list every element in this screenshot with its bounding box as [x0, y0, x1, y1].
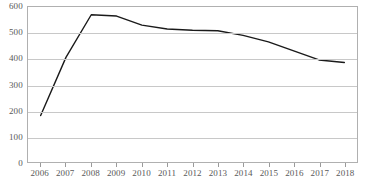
x-axis-tick-label: 2012: [183, 168, 201, 178]
x-axis-tick: [320, 163, 321, 167]
x-axis-tick: [40, 163, 41, 167]
x-axis-tick: [65, 163, 66, 167]
x-axis-tick: [218, 163, 219, 167]
x-axis-tick: [116, 163, 117, 167]
y-axis-tick-label: 200: [9, 106, 23, 116]
x-axis-tick-label: 2008: [81, 168, 99, 178]
x-axis-tick-label: 2014: [234, 168, 252, 178]
x-axis-tick-label: 2018: [336, 168, 354, 178]
x-axis-tick: [294, 163, 295, 167]
x-axis-tick-label: 2017: [311, 168, 329, 178]
x-axis-tick: [345, 163, 346, 167]
y-axis-tick-label: 0: [18, 158, 23, 168]
x-axis-tick-label: 2007: [56, 168, 74, 178]
gridline: [28, 138, 357, 139]
y-axis-tick-label: 600: [9, 1, 23, 11]
x-axis-tick-label: 2009: [107, 168, 125, 178]
gridline: [28, 86, 357, 87]
x-axis-tick: [243, 163, 244, 167]
x-axis-tick: [91, 163, 92, 167]
x-axis-tick-label: 2010: [132, 168, 150, 178]
x-axis-tick: [142, 163, 143, 167]
y-axis-tick-label: 500: [9, 27, 23, 37]
gridline: [28, 112, 357, 113]
series-polyline: [41, 15, 345, 116]
x-axis-tick: [167, 163, 168, 167]
y-axis-tick-labels: 0100200300400500600: [0, 0, 26, 191]
gridline: [28, 33, 357, 34]
x-axis-tick: [193, 163, 194, 167]
x-axis-tick-label: 2006: [31, 168, 49, 178]
x-axis-tick-label: 2013: [209, 168, 227, 178]
x-axis-tick-labels: 2006200720082009201020112012201320142015…: [27, 168, 358, 188]
x-axis-tick: [269, 163, 270, 167]
y-axis-tick-label: 300: [9, 80, 23, 90]
x-axis-tick-label: 2016: [285, 168, 303, 178]
x-axis-tick-label: 2015: [260, 168, 278, 178]
line-chart: 0100200300400500600 20062007200820092010…: [0, 0, 368, 191]
y-axis-tick-label: 100: [9, 132, 23, 142]
y-axis-tick-label: 400: [9, 53, 23, 63]
plot-area: [27, 6, 358, 163]
x-axis-tick-label: 2011: [158, 168, 176, 178]
gridline: [28, 59, 357, 60]
